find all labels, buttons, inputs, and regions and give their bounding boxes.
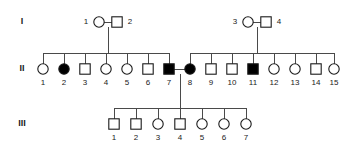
individual-id-label-III-4: 4 <box>178 133 183 142</box>
pedigree-chart: I1234II123456789101112131415III1234567 <box>0 0 341 148</box>
individual-I-2-male-unaffected <box>112 17 122 27</box>
individual-id-label-II-3: 3 <box>83 78 88 87</box>
individual-III-5-female-unaffected <box>197 119 207 129</box>
individual-id-label-III-2: 2 <box>134 133 139 142</box>
individual-id-label-I-4: 4 <box>277 17 282 26</box>
individual-id-label-I-3: 3 <box>233 17 238 26</box>
individual-II-5-female-unaffected <box>122 64 132 74</box>
individual-I-3-female-unaffected <box>243 17 253 27</box>
individual-II-11-male-affected <box>248 64 258 74</box>
individual-III-3-female-unaffected <box>153 119 163 129</box>
individual-III-7-female-unaffected <box>241 119 251 129</box>
individual-II-8-female-affected <box>185 64 195 74</box>
individual-id-label-III-6: 6 <box>222 133 227 142</box>
individual-id-label-I-1: 1 <box>84 17 89 26</box>
individual-III-4-male-unaffected <box>175 119 185 129</box>
individual-id-label-II-1: 1 <box>41 78 46 87</box>
individual-id-label-II-7: 7 <box>167 78 172 87</box>
individual-II-14-male-unaffected <box>311 64 321 74</box>
individual-id-label-II-13: 13 <box>291 78 300 87</box>
pedigree-diagram: I1234II123456789101112131415III1234567 <box>0 0 341 148</box>
individual-id-label-II-14: 14 <box>312 78 321 87</box>
individual-id-label-III-7: 7 <box>244 133 249 142</box>
individual-id-label-III-1: 1 <box>112 133 117 142</box>
individual-id-label-II-5: 5 <box>125 78 130 87</box>
individual-II-1-female-unaffected <box>38 64 48 74</box>
individual-II-15-female-unaffected <box>329 64 339 74</box>
individual-III-6-female-unaffected <box>219 119 229 129</box>
individual-I-1-female-unaffected <box>94 17 104 27</box>
individual-id-label-II-8: 8 <box>188 78 193 87</box>
individual-II-7-male-affected <box>164 64 174 74</box>
individual-II-10-male-unaffected <box>227 64 237 74</box>
individual-id-label-II-12: 12 <box>270 78 279 87</box>
individual-III-1-male-unaffected <box>109 119 119 129</box>
individual-id-label-III-3: 3 <box>156 133 161 142</box>
individual-id-label-III-5: 5 <box>200 133 205 142</box>
individual-id-label-II-9: 9 <box>209 78 214 87</box>
individual-I-4-male-unaffected <box>261 17 271 27</box>
individual-II-6-male-unaffected <box>143 64 153 74</box>
individual-id-label-II-11: 11 <box>249 78 258 87</box>
generation-label-II: II <box>19 63 24 73</box>
individual-II-3-male-unaffected <box>80 64 90 74</box>
individual-II-4-female-unaffected <box>101 64 111 74</box>
individual-II-13-female-unaffected <box>290 64 300 74</box>
individual-II-12-female-unaffected <box>269 64 279 74</box>
individual-III-2-male-unaffected <box>131 119 141 129</box>
individual-id-label-II-2: 2 <box>62 78 67 87</box>
generation-label-I: I <box>21 16 24 26</box>
individual-symbols-layer <box>38 17 339 129</box>
individual-id-label-II-15: 15 <box>330 78 339 87</box>
individual-id-label-II-6: 6 <box>146 78 151 87</box>
individual-id-label-I-2: 2 <box>128 17 133 26</box>
generation-label-III: III <box>18 118 26 128</box>
individual-II-2-female-affected <box>59 64 69 74</box>
individual-II-9-male-unaffected <box>206 64 216 74</box>
individual-id-label-II-4: 4 <box>104 78 109 87</box>
individual-id-label-II-10: 10 <box>228 78 237 87</box>
